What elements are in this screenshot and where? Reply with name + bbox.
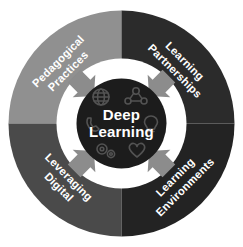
deep-learning-wheel-diagram: Pedagogical Practices Learning Partnersh… [0,0,243,247]
wheel-graphic: Pedagogical Practices Learning Partnersh… [0,0,243,247]
center-title-line1: Deep [103,106,140,123]
center-title-line2: Learning [89,123,154,140]
